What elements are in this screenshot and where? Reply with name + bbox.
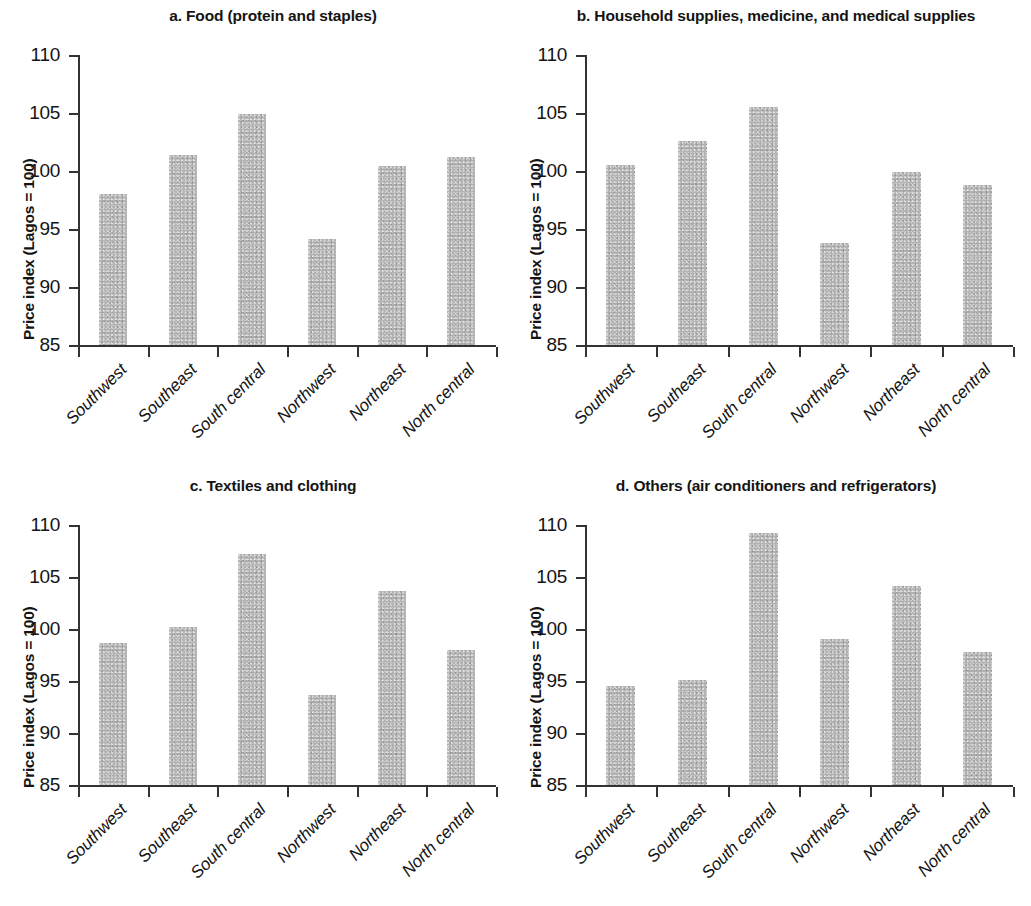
- y-tick-label-110: 110: [31, 44, 60, 66]
- y-tick-105: 105: [576, 113, 585, 115]
- x-tick-2: [728, 787, 730, 797]
- x-tick-5: [426, 347, 428, 357]
- y-tick-label-100: 100: [29, 160, 60, 182]
- panel-c-title: c. Textiles and clothing: [0, 476, 520, 496]
- bar-c-0: [99, 643, 127, 785]
- y-tick-label-90: 90: [546, 276, 567, 298]
- panel-c: c. Textiles and clothing Price index (La…: [0, 470, 520, 906]
- y-tick-label-95: 95: [546, 218, 567, 240]
- y-tick-label-110: 110: [31, 514, 60, 536]
- bar-b-1: [678, 141, 707, 345]
- x-tick-1: [148, 347, 150, 357]
- y-tick-85: 85: [576, 345, 585, 347]
- y-tick-label-90: 90: [546, 722, 567, 744]
- y-tick-label-105: 105: [29, 566, 60, 588]
- x-tick-5: [942, 347, 944, 357]
- x-tick-4: [870, 347, 872, 357]
- panel-b-y-axis-title: Price index (Lagos = 100): [527, 158, 545, 340]
- y-tick-105: 105: [576, 577, 585, 579]
- y-tick-label-90: 90: [39, 276, 60, 298]
- x-tick-2: [217, 787, 219, 797]
- y-tick-label-85: 85: [546, 774, 567, 796]
- y-tick-100: 100: [69, 171, 78, 173]
- y-tick-label-110: 110: [538, 514, 567, 536]
- panel-b-y-axis-line: [585, 55, 587, 347]
- bar-b-4: [892, 172, 921, 345]
- figure-four-panel-price-index: a. Food (protein and staples) Price inde…: [0, 0, 1031, 906]
- x-tick-3: [287, 347, 289, 357]
- x-tick-4: [357, 787, 359, 797]
- y-tick-label-95: 95: [546, 670, 567, 692]
- panel-b-title: b. Household supplies, medicine, and med…: [517, 6, 1031, 26]
- bar-b-2: [749, 107, 778, 345]
- bar-c-2: [238, 554, 266, 785]
- y-tick-label-105: 105: [536, 566, 567, 588]
- bar-c-4: [378, 591, 406, 785]
- y-tick-85: 85: [69, 345, 78, 347]
- y-tick-85: 85: [576, 785, 585, 787]
- bar-c-1: [169, 627, 197, 785]
- panel-b-plot-area: 859095100105110: [585, 55, 1013, 347]
- x-tick-6: [496, 787, 498, 797]
- bar-d-0: [606, 686, 635, 785]
- y-tick-label-105: 105: [536, 102, 567, 124]
- x-tick-4: [357, 347, 359, 357]
- y-tick-95: 95: [576, 681, 585, 683]
- x-tick-0: [78, 347, 80, 357]
- y-tick-label-85: 85: [39, 334, 60, 356]
- bar-a-5: [447, 157, 475, 345]
- y-tick-90: 90: [69, 287, 78, 289]
- x-tick-2: [217, 347, 219, 357]
- x-tick-5: [426, 787, 428, 797]
- y-tick-105: 105: [69, 113, 78, 115]
- y-tick-100: 100: [576, 171, 585, 173]
- panel-d-title: d. Others (air conditioners and refriger…: [517, 476, 1031, 496]
- x-tick-3: [799, 347, 801, 357]
- bar-c-5: [447, 650, 475, 785]
- x-tick-5: [942, 787, 944, 797]
- y-tick-95: 95: [69, 229, 78, 231]
- y-tick-label-95: 95: [39, 218, 60, 240]
- x-tick-3: [799, 787, 801, 797]
- x-tick-1: [656, 347, 658, 357]
- panel-a-y-axis-title: Price index (Lagos = 100): [20, 158, 38, 340]
- y-tick-label-100: 100: [536, 160, 567, 182]
- y-tick-label-100: 100: [536, 618, 567, 640]
- y-tick-label-85: 85: [39, 774, 60, 796]
- y-tick-label-110: 110: [538, 44, 567, 66]
- y-tick-label-100: 100: [29, 618, 60, 640]
- y-tick-110: 110: [69, 525, 78, 527]
- x-tick-0: [78, 787, 80, 797]
- bar-b-0: [606, 165, 635, 345]
- x-tick-2: [728, 347, 730, 357]
- bar-d-2: [749, 533, 778, 785]
- panel-b: b. Household supplies, medicine, and med…: [517, 0, 1031, 470]
- x-tick-6: [1013, 347, 1015, 357]
- bar-a-4: [378, 166, 406, 345]
- bar-a-0: [99, 194, 127, 345]
- y-tick-100: 100: [69, 629, 78, 631]
- bar-d-3: [820, 639, 849, 785]
- bar-b-3: [820, 243, 849, 345]
- bar-a-3: [308, 239, 336, 345]
- x-tick-0: [585, 787, 587, 797]
- y-tick-110: 110: [69, 55, 78, 57]
- y-tick-90: 90: [69, 733, 78, 735]
- panel-d: d. Others (air conditioners and refriger…: [517, 470, 1031, 906]
- bar-d-5: [963, 652, 992, 785]
- panel-a: a. Food (protein and staples) Price inde…: [0, 0, 520, 470]
- bar-d-4: [892, 586, 921, 785]
- x-tick-6: [1013, 787, 1015, 797]
- y-tick-95: 95: [69, 681, 78, 683]
- panel-a-title: a. Food (protein and staples): [0, 6, 520, 26]
- y-tick-105: 105: [69, 577, 78, 579]
- bar-d-1: [678, 680, 707, 785]
- y-tick-label-90: 90: [39, 722, 60, 744]
- panel-a-y-axis-line: [78, 55, 80, 347]
- x-tick-3: [287, 787, 289, 797]
- y-tick-85: 85: [69, 785, 78, 787]
- y-tick-90: 90: [576, 733, 585, 735]
- y-tick-label-85: 85: [546, 334, 567, 356]
- bar-b-5: [963, 185, 992, 345]
- y-tick-110: 110: [576, 55, 585, 57]
